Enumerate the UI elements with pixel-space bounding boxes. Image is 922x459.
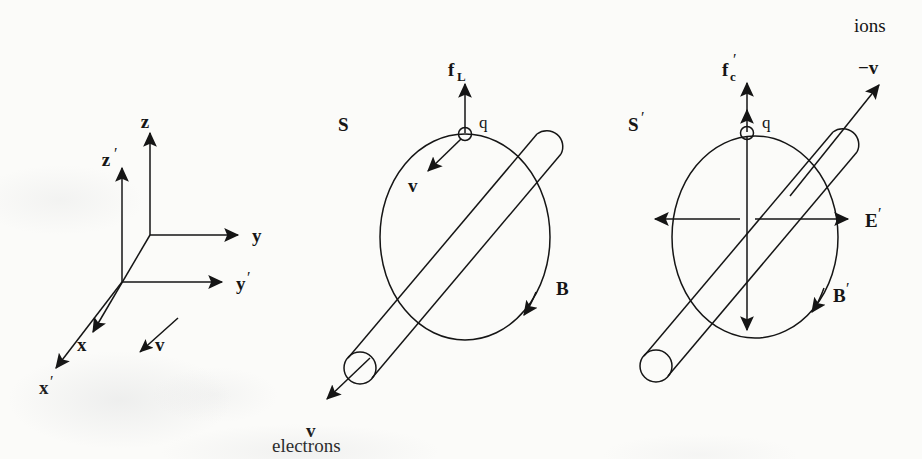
b-prime-field-arrow: [812, 288, 824, 312]
charge-label-s: q: [479, 113, 488, 132]
frame-s-prime-label: S: [628, 114, 639, 135]
frame-s-group: S f L q v B v electrons: [272, 59, 569, 456]
frame-s-prime-mark: ′: [641, 109, 645, 126]
frame-s-prime-group: S ′ f c ′ q E ′ B ′ −v ions: [628, 15, 886, 382]
lorentz-force-label: f: [448, 59, 455, 80]
wire-cap-far: [537, 131, 563, 154]
b-field-loop: [380, 134, 550, 340]
electric-field-label: E: [865, 210, 878, 231]
lorentz-force-subscript: L: [457, 69, 466, 84]
wire-prime-edge-lower: [668, 152, 857, 376]
coulomb-force-prime-mark: ′: [733, 51, 737, 68]
wire-velocity-arrow: [327, 358, 370, 399]
wire-cylinder: [344, 131, 563, 384]
axis-label-x-prime: x: [39, 377, 49, 398]
wire-edge-lower: [372, 154, 561, 378]
axis-label-x-prime-mark: ′: [50, 373, 54, 390]
magnetic-field-label: B: [556, 278, 569, 299]
wire-prime-cap-near: [640, 350, 672, 382]
carrier-label-ions: ions: [854, 15, 886, 36]
axis-label-z: z: [141, 111, 150, 132]
physics-figure: z z ′ y y ′ x x ′ v: [0, 0, 922, 459]
coulomb-force-label: f: [722, 59, 729, 80]
carrier-label-electrons: electrons: [272, 435, 341, 456]
axis-label-y-prime: y: [236, 273, 246, 294]
frame-s-label: S: [338, 114, 349, 135]
axis-label-z-prime-mark: ′: [114, 145, 118, 162]
charge-velocity-arrow: [428, 139, 461, 171]
wire-velocity-label-prime: −v: [858, 57, 879, 78]
axis-label-y: y: [252, 225, 262, 246]
charge-velocity-label: v: [408, 175, 418, 196]
axis-x-prime-line: [56, 282, 122, 368]
axis-label-y-prime-mark: ′: [247, 269, 251, 286]
axis-label-v: v: [155, 334, 165, 355]
wire-edge-upper: [348, 134, 537, 358]
wire-prime-cap-far: [833, 129, 859, 152]
electric-field-prime-mark: ′: [878, 205, 882, 222]
axis-label-x: x: [77, 334, 87, 355]
coordinate-axes-group: z z ′ y y ′ x x ′ v: [39, 111, 262, 398]
axis-label-z-prime: z: [102, 149, 111, 170]
magnetic-field-prime-mark: ′: [846, 280, 850, 297]
figure-canvas: z z ′ y y ′ x x ′ v: [0, 0, 922, 459]
magnetic-field-label-prime: B: [833, 285, 846, 306]
coulomb-force-subscript: c: [730, 69, 736, 84]
charge-label-s-prime: q: [762, 113, 771, 132]
